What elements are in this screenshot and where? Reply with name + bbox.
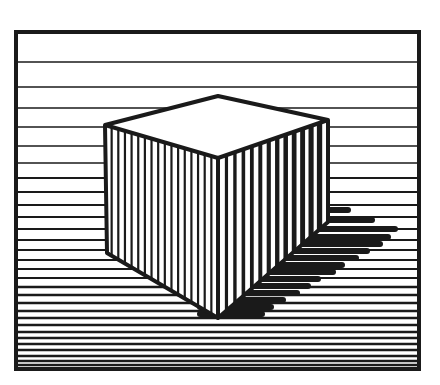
striped-cube-artwork: Striped cube optical illusion [0, 0, 440, 385]
